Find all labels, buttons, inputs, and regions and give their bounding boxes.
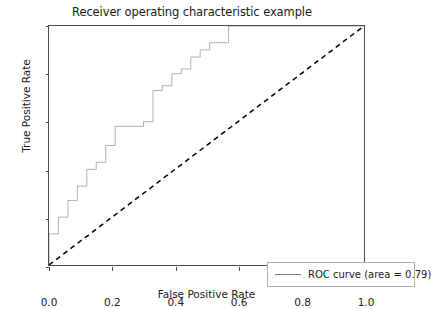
x-axis-label: False Positive Rate	[48, 288, 365, 300]
xtick-mark	[239, 267, 240, 271]
ytick-mark	[46, 26, 50, 27]
xtick-mark	[176, 267, 177, 271]
ytick-mark	[46, 74, 50, 75]
xtick-mark	[112, 267, 113, 271]
legend-label: ROC curve (area = 0.79)	[308, 269, 431, 280]
ytick-mark	[46, 219, 50, 220]
legend-line-swatch	[275, 274, 301, 275]
plot-svg	[49, 26, 364, 265]
chart-title: Receiver operating characteristic exampl…	[0, 5, 384, 19]
ytick-mark	[46, 122, 50, 123]
y-axis-label: True Positive Rate	[20, 31, 32, 181]
chart-legend: ROC curve (area = 0.79)	[267, 262, 415, 287]
xtick-mark	[49, 267, 50, 271]
plot-area: 0.0 0.2 0.4 0.6 0.8 1.0 0.0 0.2 0.4 0.6 …	[48, 25, 365, 266]
ytick-mark	[46, 171, 50, 172]
chance-diagonal-line	[49, 26, 364, 265]
